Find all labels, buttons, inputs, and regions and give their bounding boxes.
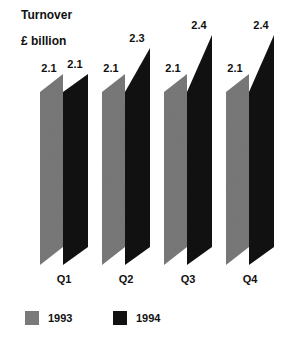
bar-chart: 2.12.1Q12.12.3Q22.12.4Q32.12.4Q4 <box>0 0 292 300</box>
legend-item-1993: 1993 <box>25 311 72 325</box>
bar-1994-q1 <box>63 74 88 265</box>
category-label-q3: Q3 <box>181 273 196 285</box>
value-label-1993-q3: 2.1 <box>165 62 180 74</box>
legend-swatch-1993 <box>25 311 39 325</box>
category-label-q2: Q2 <box>119 273 134 285</box>
bar-1993-q1 <box>40 74 63 265</box>
bar-1993-q4 <box>226 74 249 265</box>
value-label-1994-q3: 2.4 <box>191 19 207 31</box>
bar-1994-q4 <box>249 35 274 265</box>
legend-swatch-1994 <box>113 311 127 325</box>
category-label-q1: Q1 <box>57 273 72 285</box>
legend-label-1993: 1993 <box>48 312 72 324</box>
bar-1993-q3 <box>164 74 187 265</box>
value-label-1994-q4: 2.4 <box>253 19 269 31</box>
value-label-1994-q2: 2.3 <box>129 32 144 44</box>
bar-1994-q2 <box>125 48 150 265</box>
value-label-1993-q2: 2.1 <box>103 62 118 74</box>
bar-1993-q2 <box>102 74 125 265</box>
value-label-1993-q1: 2.1 <box>41 62 56 74</box>
legend-label-1994: 1994 <box>136 312 160 324</box>
value-label-1993-q4: 2.1 <box>227 62 242 74</box>
legend-item-1994: 1994 <box>113 311 160 325</box>
value-label-1994-q1: 2.1 <box>67 58 82 70</box>
category-label-q4: Q4 <box>243 273 259 285</box>
bar-1994-q3 <box>187 35 212 265</box>
